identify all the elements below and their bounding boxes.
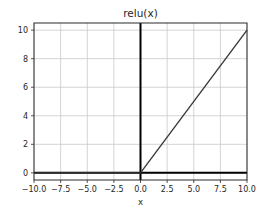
y-tick-label: 2 (23, 140, 28, 149)
x-tick-label: 0.0 (134, 185, 147, 194)
x-tick-label: 5.0 (187, 185, 200, 194)
x-tick-label: 10.0 (238, 185, 256, 194)
x-tick-label: −10.0 (22, 185, 47, 194)
y-tick-label: 10 (18, 26, 28, 35)
y-tick-label: 6 (23, 83, 28, 92)
y-tick-label: 0 (23, 169, 28, 178)
x-tick-label: −5.0 (78, 185, 97, 194)
y-tick-label: 4 (23, 112, 28, 121)
y-tick-label: 8 (23, 55, 28, 64)
x-axis-label: x (34, 197, 247, 207)
relu-plot-svg: −10.0−7.5−5.0−2.50.02.55.07.510.00246810 (0, 0, 268, 218)
x-tick-label: −7.5 (51, 185, 70, 194)
relu-figure: relu(x) −10.0−7.5−5.0−2.50.02.55.07.510.… (0, 0, 268, 218)
x-tick-label: 7.5 (214, 185, 227, 194)
x-tick-label: −2.5 (104, 185, 123, 194)
x-tick-label: 2.5 (161, 185, 174, 194)
